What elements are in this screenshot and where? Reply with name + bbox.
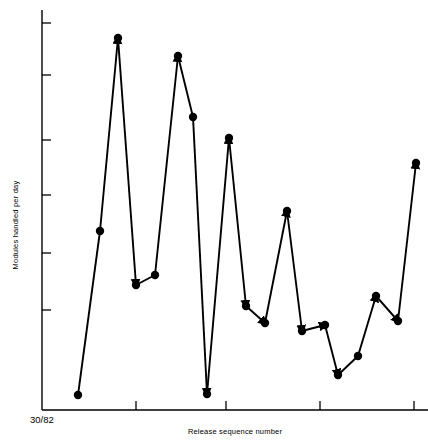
data-point (132, 281, 140, 289)
data-point (74, 391, 82, 399)
y-axis-title: Modules handled per day (11, 181, 20, 270)
line-chart: Modules handled per day Release sequence… (0, 0, 428, 440)
data-point (174, 52, 182, 60)
data-point (321, 321, 329, 329)
chart-container: Modules handled per day Release sequence… (0, 0, 428, 440)
data-point (394, 317, 402, 325)
data-point (298, 327, 306, 335)
data-point (334, 371, 342, 379)
data-point (225, 134, 233, 142)
data-point (354, 352, 362, 360)
data-point (203, 390, 211, 398)
data-point (242, 302, 250, 310)
x-axis-origin-label: 30/82 (30, 414, 54, 425)
data-point (151, 271, 159, 279)
data-point (372, 292, 380, 300)
data-point (189, 113, 197, 121)
data-point (261, 319, 269, 327)
data-point (283, 207, 291, 215)
data-point (114, 34, 122, 42)
data-point (96, 227, 104, 235)
chart-background (0, 0, 428, 440)
x-axis-title: Release sequence number (188, 427, 283, 436)
data-point (412, 159, 420, 167)
